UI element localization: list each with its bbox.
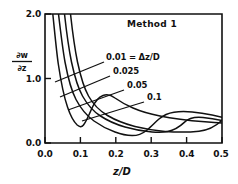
chart-figure: 2.0 1.0 0.0 0.0 0.1 0.2 0.3 0.4 0.5 z/D … <box>0 0 238 184</box>
x-axis-title: z/D <box>112 166 131 177</box>
x-tick-0: 0.0 <box>37 149 52 159</box>
x-tick-3: 0.3 <box>144 149 159 159</box>
plot-title: Method 1 <box>127 19 177 29</box>
chart-canvas: 2.0 1.0 0.0 0.0 0.1 0.2 0.3 0.4 0.5 z/D … <box>0 0 238 184</box>
annotation-0p025: 0.025 <box>113 66 139 76</box>
y-axis-title-denominator: ∂z <box>17 64 26 73</box>
y-tick-2: 2.0 <box>26 9 41 19</box>
x-tick-5: 0.5 <box>213 149 228 159</box>
y-tick-0: 0.0 <box>26 138 41 148</box>
annotation-0p1: 0.1 <box>147 92 162 102</box>
annotation-0p01: 0.01 = Δz/D <box>106 52 160 62</box>
annotation-0p05: 0.05 <box>127 80 147 90</box>
x-tick-1: 0.1 <box>73 149 88 159</box>
y-tick-1: 1.0 <box>26 74 41 84</box>
x-tick-2: 0.2 <box>108 149 123 159</box>
y-axis-title-numerator: ∂w <box>16 51 28 60</box>
x-tick-4: 0.4 <box>179 149 194 159</box>
